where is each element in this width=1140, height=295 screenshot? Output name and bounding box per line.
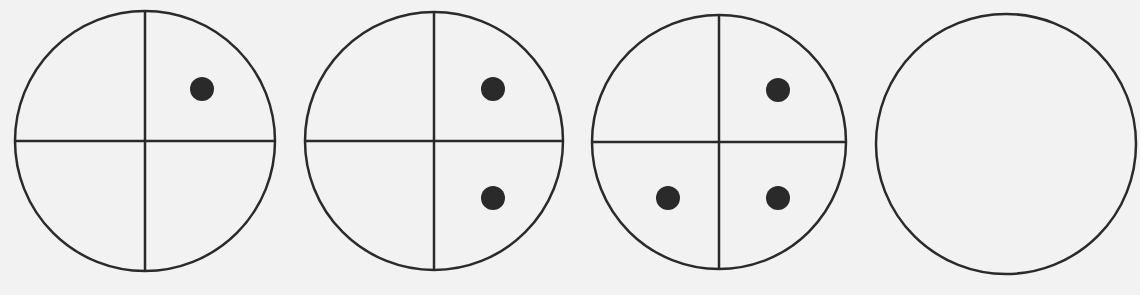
dot-top-right [190, 77, 214, 101]
panel-4 [876, 14, 1136, 274]
dot-top-right [481, 77, 505, 101]
dot-bottom-right [481, 186, 505, 210]
dot-bottom-right [766, 186, 790, 210]
diagram-stage [0, 0, 1140, 295]
dot-top-right [766, 78, 790, 102]
panel-1 [15, 11, 275, 271]
dot-bottom-left [656, 186, 680, 210]
circle-outline [876, 14, 1136, 274]
panel-2 [305, 12, 563, 270]
circle-sequence-diagram [0, 0, 1140, 295]
panel-3 [592, 15, 846, 269]
